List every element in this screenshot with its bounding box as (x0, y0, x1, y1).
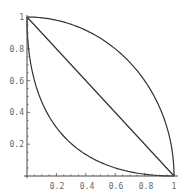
x-tick-label: 1 (172, 182, 177, 191)
plot-area: 0.2 0.4 0.6 0.8 1 0.2 0.4 0.6 0.8 1 (0, 0, 185, 193)
x-tick-label: 0.6 (109, 182, 124, 191)
x-tick-labels: 0.2 0.4 0.6 0.8 1 (50, 182, 177, 191)
x-tick-label: 0.4 (80, 182, 95, 191)
y-tick-label: 0.2 (10, 140, 25, 149)
y-tick-labels: 0.2 0.4 0.6 0.8 1 (10, 13, 25, 149)
curve-diagonal (27, 17, 174, 176)
y-tick-label: 1 (19, 13, 24, 22)
y-tick-label: 0.4 (10, 108, 25, 117)
y-tick-label: 0.6 (10, 77, 25, 86)
x-tick-label: 0.2 (50, 182, 65, 191)
curves (27, 17, 174, 176)
x-tick-label: 0.8 (139, 182, 154, 191)
y-tick-label: 0.8 (10, 45, 25, 54)
